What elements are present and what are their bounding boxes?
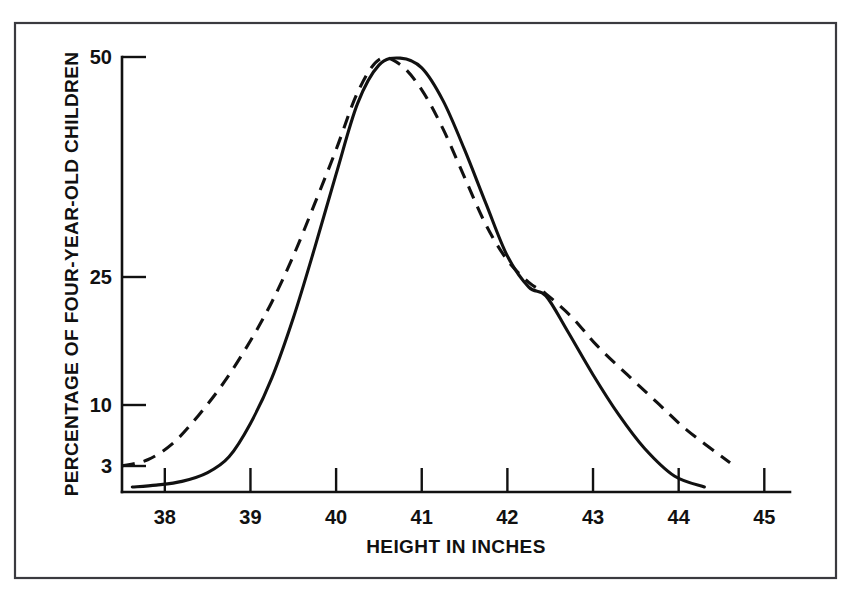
chart-canvas: 5025103 3839404142434445 HEIGHT IN INCHE… (0, 0, 860, 594)
y-axis-tick-label: 50 (90, 46, 112, 68)
x-axis-tick-label: 40 (325, 506, 347, 528)
x-axis-tick-label: 41 (411, 506, 433, 528)
figure-root: 5025103 3839404142434445 HEIGHT IN INCHE… (0, 0, 860, 594)
y-axis-tick-label: 25 (90, 266, 112, 288)
x-axis-tick-label: 43 (582, 506, 604, 528)
y-axis-title: PERCENTAGE OF FOUR-YEAR-OLD CHILDREN (61, 52, 82, 497)
y-axis-tick-marks (122, 57, 146, 466)
x-axis-tick-label: 44 (668, 506, 691, 528)
y-axis-tick-label: 10 (90, 394, 112, 416)
x-axis-tick-label: 38 (154, 506, 176, 528)
x-axis-tick-label: 45 (753, 506, 775, 528)
y-axis-tick-label: 3 (101, 455, 112, 477)
x-axis-tick-label: 39 (239, 506, 261, 528)
figure-border (15, 23, 836, 578)
x-axis-tick-marks (165, 468, 764, 492)
x-axis-tick-label: 42 (496, 506, 518, 528)
y-axis-tick-labels: 5025103 (90, 46, 112, 477)
solid-curve (132, 58, 704, 487)
x-axis-title: HEIGHT IN INCHES (366, 536, 546, 557)
plot-area: 5025103 3839404142434445 (90, 46, 790, 528)
data-series-layer (122, 58, 730, 487)
dashed-curve (122, 58, 730, 466)
x-axis-tick-labels: 3839404142434445 (154, 506, 776, 528)
